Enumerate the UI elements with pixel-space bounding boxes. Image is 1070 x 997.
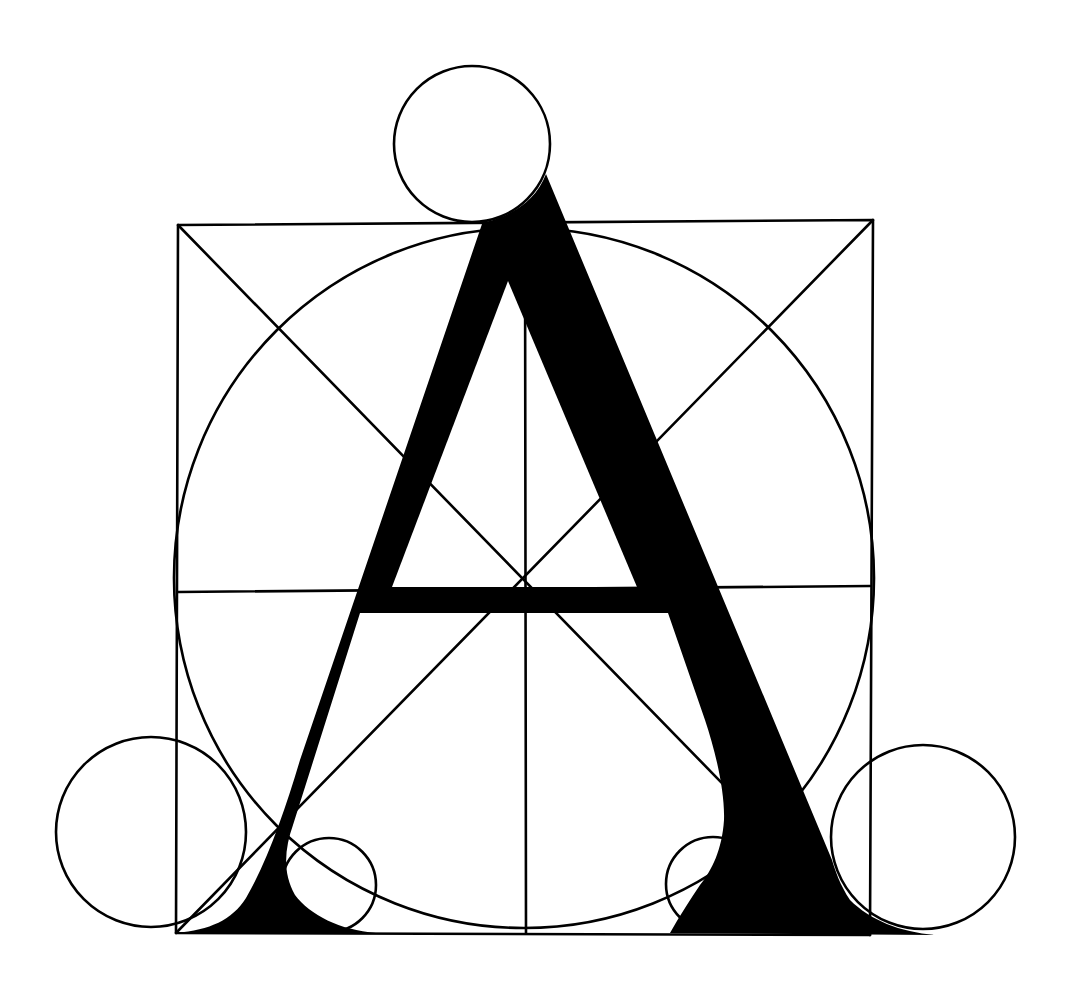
letter-a-construction-diagram (0, 0, 1070, 997)
apex-circle (394, 66, 550, 222)
diagram-canvas (0, 0, 1070, 997)
vertical-center-axis (525, 225, 526, 933)
